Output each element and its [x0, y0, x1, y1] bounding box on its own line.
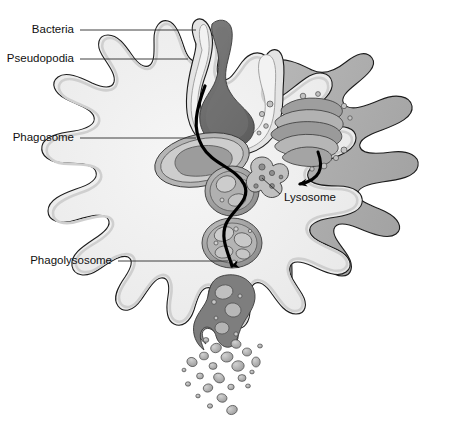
label-text-bacteria: Bacteria [32, 23, 75, 35]
label-text-lysosome: Lysosome [284, 191, 336, 203]
label-text-pseudopodia: Pseudopodia [7, 52, 75, 64]
label-text-phagolysosome: Phagolysosome [30, 254, 112, 266]
phagolysosome-vesicle [202, 218, 262, 268]
phagocytosis-diagram: Bacteria Pseudopodia Phagosome Lysosome … [0, 0, 450, 425]
phagocytosis-figure: Bacteria Pseudopodia Phagosome Lysosome … [0, 0, 450, 425]
label-text-phagosome: Phagosome [13, 131, 74, 143]
expelled-debris [182, 338, 262, 417]
